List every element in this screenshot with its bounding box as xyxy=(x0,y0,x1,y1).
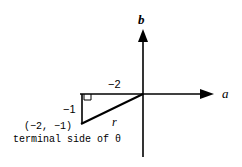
hypotenuse-label: r xyxy=(112,115,117,129)
a-axis-label: a xyxy=(222,86,229,101)
point-label: (−2, −1) xyxy=(24,121,72,132)
a-axis-arrowhead-icon xyxy=(200,89,214,99)
right-angle-marker-icon xyxy=(84,94,91,100)
coordinate-diagram: b a −2 −1 r (−2, −1) terminal side of θ xyxy=(0,0,242,167)
terminal-side-caption: terminal side of θ xyxy=(13,134,121,145)
b-axis-arrowhead-icon xyxy=(138,29,148,42)
b-axis-label: b xyxy=(138,12,145,27)
horizontal-leg-label: −2 xyxy=(108,78,121,90)
vertical-leg-label: −1 xyxy=(63,103,76,115)
